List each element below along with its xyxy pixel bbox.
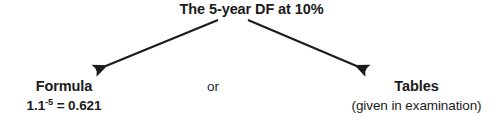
branch-formula: Formula 1.1-5 = 0.621 [0, 79, 128, 113]
branch-tables: Tables (given in examination) [330, 79, 503, 113]
expression-exponent: -5 [45, 97, 53, 107]
expression-base: 1.1 [27, 98, 45, 113]
connector-label: or [183, 80, 243, 94]
expression-result: = 0.621 [53, 98, 101, 113]
branch-tables-title: Tables [330, 79, 503, 94]
arrow-to-tables [248, 20, 366, 70]
branch-formula-title: Formula [0, 79, 128, 94]
arrow-to-formula [96, 20, 218, 70]
root-node-label: The 5-year DF at 10% [0, 2, 503, 17]
branch-tables-note: (given in examination) [330, 99, 503, 113]
branch-formula-expression: 1.1-5 = 0.621 [0, 99, 128, 113]
decision-diagram: The 5-year DF at 10% Formula 1.1-5 = 0.6… [0, 0, 503, 125]
